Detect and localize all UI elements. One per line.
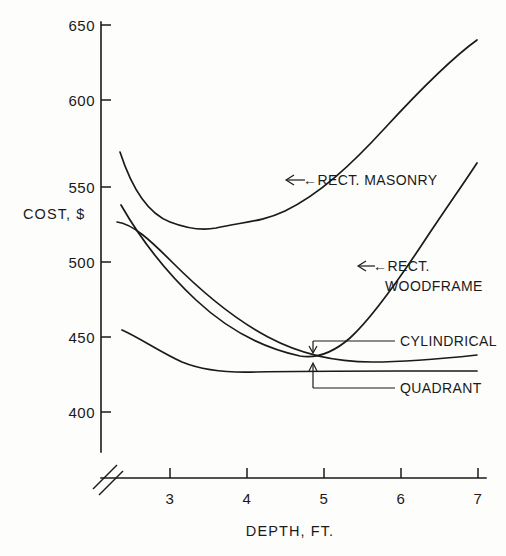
curve-rect-masonry bbox=[120, 40, 477, 229]
chart-canvas: 650 600 550 500 450 400 3 4 5 6 7 COST, … bbox=[0, 0, 506, 556]
series-curves bbox=[117, 40, 477, 372]
leader-cylindrical bbox=[309, 341, 395, 353]
y-tick-label-650: 650 bbox=[68, 17, 95, 34]
x-axis-title: DEPTH, FT. bbox=[246, 523, 334, 539]
x-tick-label-3: 3 bbox=[166, 490, 175, 507]
x-tick-label-6: 6 bbox=[397, 490, 406, 507]
y-tick-marks bbox=[101, 25, 111, 412]
cost-vs-depth-chart: 650 600 550 500 450 400 3 4 5 6 7 COST, … bbox=[0, 0, 506, 556]
annotation-cylindrical: CYLINDRICAL bbox=[400, 333, 497, 349]
leader-quadrant bbox=[309, 363, 395, 388]
y-tick-label-500: 500 bbox=[68, 254, 95, 271]
axis-break-icon bbox=[93, 465, 123, 495]
y-tick-label-450: 450 bbox=[68, 329, 95, 346]
annotation-rect-woodframe-line1: ←RECT. bbox=[373, 258, 430, 274]
annotation-rect-woodframe-line2: WOODFRAME bbox=[385, 278, 483, 294]
y-tick-label-400: 400 bbox=[68, 404, 95, 421]
x-tick-label-4: 4 bbox=[243, 490, 252, 507]
y-axis-title: COST, $ bbox=[23, 206, 86, 222]
y-tick-label-550: 550 bbox=[68, 179, 95, 196]
x-tick-marks bbox=[170, 468, 478, 478]
x-tick-labels: 3 4 5 6 7 bbox=[166, 490, 483, 507]
annotation-rect-masonry: ←RECT. MASONRY bbox=[303, 172, 438, 188]
y-tick-label-600: 600 bbox=[68, 92, 95, 109]
annotation-quadrant: QUADRANT bbox=[400, 380, 482, 396]
x-tick-label-5: 5 bbox=[320, 490, 329, 507]
x-tick-label-7: 7 bbox=[474, 490, 483, 507]
annotation-labels: ←RECT. MASONRY ←RECT. WOODFRAME CYLINDRI… bbox=[303, 172, 497, 396]
